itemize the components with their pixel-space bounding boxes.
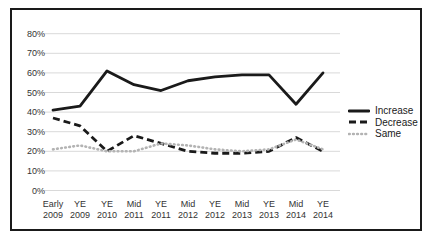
y-axis-tick-label: 60% xyxy=(27,68,45,78)
x-axis-tick-line2: 2010 xyxy=(97,210,117,220)
page: 0%10%20%30%40%50%60%70%80%Early2009YE200… xyxy=(0,0,430,238)
x-axis-tick-label: Mid2012 xyxy=(178,199,198,220)
x-axis-tick-line2: 2012 xyxy=(205,210,225,220)
y-axis-tick-label: 50% xyxy=(27,88,45,98)
legend-label: Same xyxy=(375,128,401,140)
legend-swatch-dotted-line xyxy=(348,131,370,137)
x-axis-tick-label: YE2013 xyxy=(259,199,279,220)
x-axis-tick-line1: YE xyxy=(155,199,167,209)
x-axis-tick-line1: Mid xyxy=(235,199,250,209)
y-axis-tick-label: 20% xyxy=(27,146,45,156)
x-axis-tick-label: Mid2013 xyxy=(232,199,252,220)
x-axis-tick-label: YE2009 xyxy=(70,199,90,220)
chart-legend: IncreaseDecreaseSame xyxy=(348,105,418,140)
x-axis-tick-label: Mid2011 xyxy=(124,199,143,220)
x-axis-tick-line1: Mid xyxy=(181,199,196,209)
legend-swatch-solid-line xyxy=(348,108,370,114)
y-axis-tick-label: 70% xyxy=(27,48,45,58)
y-axis-tick-label: 80% xyxy=(27,29,45,39)
x-axis-tick-label: YE2014 xyxy=(313,199,333,220)
x-axis-tick-line2: 2013 xyxy=(259,210,279,220)
x-axis-tick-line2: 2009 xyxy=(43,210,63,220)
x-axis-tick-label: YE2012 xyxy=(205,199,225,220)
legend-item-decrease: Decrease xyxy=(348,117,418,129)
x-axis-tick-line2: 2011 xyxy=(151,210,170,220)
x-axis-tick-line1: YE xyxy=(209,199,221,209)
legend-item-same: Same xyxy=(348,128,418,140)
y-axis-tick-label: 0% xyxy=(32,186,45,196)
x-axis-tick-line2: 2013 xyxy=(232,210,252,220)
x-axis-tick-line1: Mid xyxy=(127,199,142,209)
x-axis-tick-line2: 2012 xyxy=(178,210,198,220)
legend-label: Increase xyxy=(375,105,413,117)
x-axis-tick-line2: 2009 xyxy=(70,210,90,220)
x-axis-tick-line1: Early xyxy=(43,199,64,209)
x-axis-tick-line2: 2011 xyxy=(124,210,143,220)
y-axis-tick-label: 40% xyxy=(27,107,45,117)
chart-frame: 0%10%20%30%40%50%60%70%80%Early2009YE200… xyxy=(10,8,422,231)
x-axis-tick-line1: Mid xyxy=(289,199,304,209)
x-axis-tick-label: YE2011 xyxy=(151,199,170,220)
legend-label: Decrease xyxy=(375,117,418,129)
x-axis-tick-line1: YE xyxy=(74,199,86,209)
x-axis-tick-label: YE2010 xyxy=(97,199,117,220)
y-axis-tick-label: 30% xyxy=(27,127,45,137)
x-axis-tick-label: Mid2014 xyxy=(286,199,306,220)
x-axis-tick-line1: YE xyxy=(317,199,329,209)
x-axis-tick-line1: YE xyxy=(101,199,113,209)
x-axis-tick-label: Early2009 xyxy=(43,199,64,220)
legend-item-increase: Increase xyxy=(348,105,418,117)
x-axis-tick-line1: YE xyxy=(263,199,275,209)
series-line-increase xyxy=(53,71,323,110)
y-axis-tick-label: 10% xyxy=(27,166,45,176)
x-axis-tick-line2: 2014 xyxy=(313,210,333,220)
legend-swatch-dashed-line xyxy=(348,119,370,125)
x-axis-tick-line2: 2014 xyxy=(286,210,306,220)
